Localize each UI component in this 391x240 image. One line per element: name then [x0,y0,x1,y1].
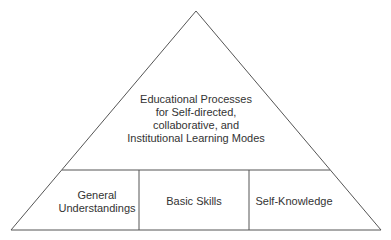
base-label-line: Self-Knowledge [249,195,339,208]
apex-label-line: for Self-directed, [120,106,272,119]
apex-section-label: Educational Processes for Self-directed,… [120,93,272,145]
base-section-self-knowledge: Self-Knowledge [249,195,339,208]
base-label-line: Understandings [52,202,142,215]
base-section-general-understandings: General Understandings [52,189,142,215]
base-section-basic-skills: Basic Skills [139,195,249,208]
apex-label-line: collaborative, and [120,119,272,132]
apex-label-line: Institutional Learning Modes [120,132,272,145]
apex-label-line: Educational Processes [120,93,272,106]
base-label-line: General [52,189,142,202]
base-label-line: Basic Skills [139,195,249,208]
